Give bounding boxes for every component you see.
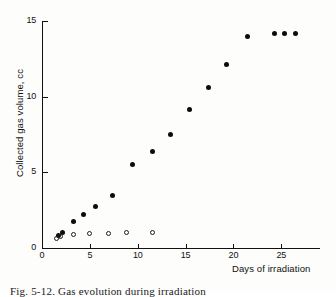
x-axis-title: Days of irradiation bbox=[232, 264, 310, 274]
data-point-filled-circles bbox=[293, 31, 298, 36]
data-point-filled-circles bbox=[224, 62, 229, 67]
data-point-open-circles bbox=[87, 231, 92, 236]
data-point-filled-circles bbox=[71, 219, 76, 224]
y-tick-label: 15 bbox=[14, 16, 36, 25]
data-point-filled-circles bbox=[187, 107, 192, 112]
x-tick-label: 0 bbox=[30, 250, 54, 260]
data-point-open-circles bbox=[150, 230, 155, 235]
y-tick-mark bbox=[43, 172, 48, 173]
data-point-filled-circles bbox=[168, 132, 173, 137]
figure-caption: Fig. 5-12. Gas evolution during irradiat… bbox=[10, 285, 206, 297]
data-point-filled-circles bbox=[110, 193, 115, 198]
x-axis-line bbox=[42, 248, 320, 249]
x-tick-label: 5 bbox=[78, 250, 102, 260]
data-point-filled-circles bbox=[81, 212, 86, 217]
x-tick-label: 10 bbox=[126, 250, 150, 260]
data-point-filled-circles bbox=[93, 204, 98, 209]
x-tick-mark bbox=[90, 244, 91, 249]
x-tick-mark bbox=[138, 244, 139, 249]
y-tick-mark bbox=[43, 97, 48, 98]
data-point-filled-circles bbox=[245, 34, 250, 39]
x-tick-label: 20 bbox=[221, 250, 245, 260]
x-tick-mark bbox=[42, 244, 43, 249]
data-point-open-circles bbox=[58, 234, 63, 239]
data-point-open-circles bbox=[71, 232, 76, 237]
data-point-open-circles bbox=[106, 231, 111, 236]
data-point-filled-circles bbox=[206, 85, 211, 90]
x-tick-label: 15 bbox=[174, 250, 198, 260]
x-tick-mark bbox=[186, 244, 187, 249]
y-axis-title: Collected gas volume, cc bbox=[15, 43, 25, 203]
y-axis-line bbox=[42, 21, 43, 249]
data-point-filled-circles bbox=[282, 31, 287, 36]
y-tick-mark bbox=[43, 21, 48, 22]
x-tick-mark bbox=[281, 244, 282, 249]
data-point-filled-circles bbox=[150, 149, 155, 154]
data-point-open-circles bbox=[124, 230, 129, 235]
x-tick-label: 25 bbox=[269, 250, 293, 260]
y-tick-mark bbox=[43, 248, 48, 249]
x-tick-mark bbox=[233, 244, 234, 249]
data-point-filled-circles bbox=[272, 31, 277, 36]
data-point-filled-circles bbox=[130, 162, 135, 167]
